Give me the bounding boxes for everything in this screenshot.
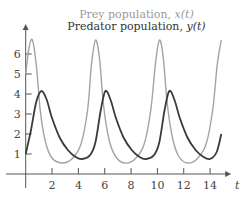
population-chart: 2468101214t123456 bbox=[0, 0, 249, 199]
y-tick-label: 3 bbox=[14, 108, 21, 121]
x-tick-label: 10 bbox=[150, 179, 164, 192]
y-axis-arrow-icon bbox=[23, 24, 29, 30]
x-tick-label: 2 bbox=[49, 179, 56, 192]
axes: 2468101214t123456 bbox=[6, 24, 240, 192]
y-tick-label: 5 bbox=[14, 68, 21, 81]
x-axis-arrow-icon bbox=[225, 171, 231, 177]
x-tick-label: 12 bbox=[177, 179, 191, 192]
y-tick-label: 6 bbox=[14, 48, 21, 61]
x-tick-label: 4 bbox=[75, 179, 82, 192]
series-lines bbox=[26, 39, 222, 163]
x-tick-label: 14 bbox=[203, 179, 217, 192]
y-tick-label: 2 bbox=[14, 128, 21, 141]
predator-curve bbox=[26, 91, 222, 160]
x-tick-label: 6 bbox=[101, 179, 108, 192]
y-tick-label: 4 bbox=[14, 88, 21, 101]
y-tick-label: 1 bbox=[14, 148, 21, 161]
x-axis-label: t bbox=[235, 179, 240, 192]
x-tick-label: 8 bbox=[128, 179, 135, 192]
